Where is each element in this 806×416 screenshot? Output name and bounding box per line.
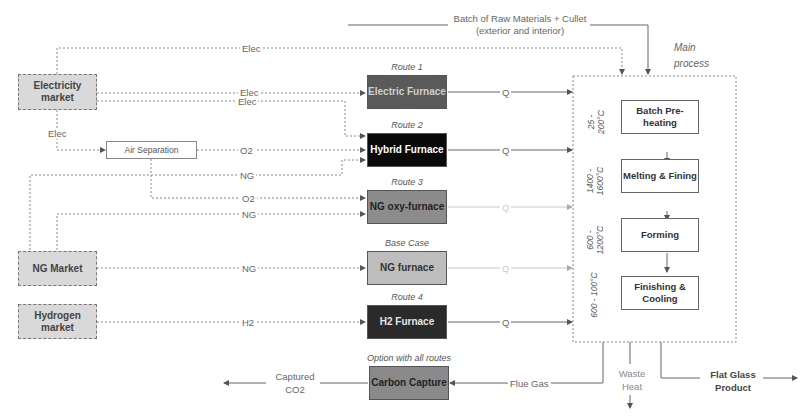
step-label: Forming — [641, 229, 679, 241]
temp-range: 600 - 100°C — [589, 263, 599, 327]
carbon-capture: Carbon Capture — [369, 366, 449, 400]
flow-label-o2: O2 — [240, 193, 257, 204]
ng-furnace: NG furnace — [367, 251, 447, 285]
step-label: Batch Pre-heating — [622, 105, 698, 129]
hydrogen-market: Hydrogen market — [18, 304, 97, 339]
flow-label-ng: NG — [238, 170, 256, 181]
air-separation-label: Air Separation — [125, 144, 179, 156]
step-finishing-cooling: Finishing & Cooling — [621, 276, 699, 310]
route-label: Route 4 — [391, 292, 423, 302]
furnace-label: Hybrid Furnace — [370, 144, 443, 156]
furnace-label: H2 Furnace — [380, 316, 434, 328]
waste-heat-label: Waste Heat — [612, 367, 652, 393]
flow-label-q: Q — [500, 263, 511, 274]
flow-label-ng: NG — [240, 209, 258, 220]
step-label: Finishing & Cooling — [622, 281, 698, 305]
route-label: Route 1 — [391, 62, 423, 72]
flow-label-elec: Elec — [240, 43, 262, 54]
flue-gas-label: Flue Gas — [508, 378, 551, 389]
flat-glass-product-label: Flat Glass Product — [703, 368, 763, 394]
flow-label-q: Q — [500, 87, 511, 98]
flow-label-h2: H2 — [240, 317, 256, 328]
flow-label-elec: Elec — [46, 128, 68, 139]
carbon-capture-label: Carbon Capture — [371, 377, 447, 389]
temp-range: 1400 - 1600°C — [585, 156, 605, 206]
temp-range: 25 - 200°C — [586, 104, 606, 140]
batch-label: Batch of Raw Materials + Cullet (exterio… — [450, 13, 590, 37]
route-label: Route 3 — [391, 177, 423, 187]
flow-label-q: Q — [500, 202, 511, 213]
temp-range: 600 - 1200°C — [585, 217, 605, 263]
captured-co2-label: Captured CO2 — [270, 370, 320, 396]
electricity-market-label: Electricity market — [19, 80, 96, 104]
electricity-market: Electricity market — [18, 74, 97, 110]
step-forming: Forming — [621, 218, 699, 252]
route-label: Base Case — [385, 238, 429, 248]
route-label: Route 2 — [391, 120, 423, 130]
electric-furnace: Electric Furnace — [367, 75, 447, 109]
ng-oxy-furnace: NG oxy-furnace — [367, 190, 447, 224]
flow-label-ng: NG — [240, 263, 258, 274]
step-melting-fining: Melting & Fining — [621, 159, 699, 193]
furnace-label: NG furnace — [380, 262, 434, 274]
furnace-label: NG oxy-furnace — [370, 201, 444, 213]
ng-market-label: NG Market — [32, 263, 82, 275]
flow-label-q: Q — [500, 145, 511, 156]
h2-furnace: H2 Furnace — [367, 305, 447, 339]
step-label: Melting & Fining — [623, 170, 697, 182]
step-batch-preheating: Batch Pre-heating — [621, 100, 699, 134]
flow-label-q: Q — [500, 317, 511, 328]
main-process-title: Main process — [672, 40, 726, 72]
furnace-label: Electric Furnace — [368, 86, 446, 98]
option-label: Option with all routes — [367, 353, 451, 363]
hydrogen-market-label: Hydrogen market — [19, 310, 96, 334]
flow-label-o2: O2 — [238, 145, 255, 156]
hybrid-furnace: Hybrid Furnace — [367, 133, 447, 167]
flow-label-elec: Elec — [236, 96, 258, 107]
air-separation: Air Separation — [106, 141, 197, 159]
ng-market: NG Market — [18, 251, 97, 286]
